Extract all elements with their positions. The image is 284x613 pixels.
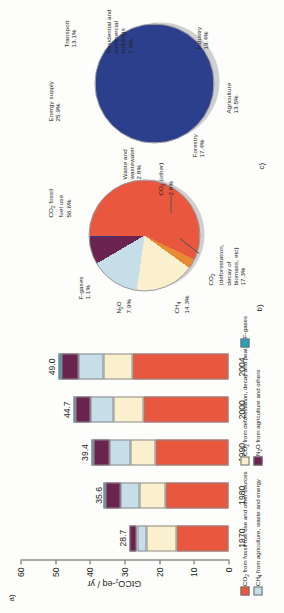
pie-b-wrap <box>88 179 200 291</box>
pie-c-label-energy-supply: Energy supply25.9% <box>46 61 60 121</box>
legend-swatch-co2-fossil <box>240 587 249 596</box>
bar-segment-s0-1970[interactable] <box>176 525 228 551</box>
pie-c-label-forestry: Forestry17.4% <box>190 117 204 157</box>
pie-c-label-agriculture: Agriculture13.5% <box>224 67 238 113</box>
bar-segment-s2-1990[interactable] <box>109 439 130 465</box>
bar-segment-s0-2000[interactable] <box>143 396 228 422</box>
pie-b-slices[interactable] <box>88 179 200 291</box>
bar-segment-s4-1980[interactable] <box>103 482 105 508</box>
legend-label-co2-deforestation: CO2 from deforestation, decay and peat <box>240 348 250 456</box>
bar-1990[interactable] <box>91 439 228 465</box>
bar-segment-s0-1990[interactable] <box>155 439 228 465</box>
y-tick-30 <box>124 560 125 564</box>
bar-segment-s1-2000[interactable] <box>113 396 142 422</box>
panel-b-tag: b) <box>254 304 263 311</box>
bar-segment-s3-2000[interactable] <box>75 396 90 422</box>
panel-b-pie-by-gas: b) CO2 fossilfuel use56.6% CO2 (other)2.… <box>2 153 284 313</box>
pie-c-label-industry: Industry19.4% <box>194 9 208 49</box>
bar-total-label-1970: 28.7 <box>117 518 127 558</box>
bar-plot-area: 28.7197035.6198039.4199044.7200049.02004 <box>20 345 228 559</box>
panel-a-bar-chart: a) 0 10 20 30 40 50 60 GtCO2-eq / yr 28.… <box>6 307 278 607</box>
y-tick-50 <box>55 560 56 564</box>
bar-segment-s4-2000[interactable] <box>73 396 75 422</box>
bar-segment-s3-2004[interactable] <box>61 353 78 379</box>
y-axis-label: GtCO2-eq / yr <box>0 577 234 589</box>
bar-segment-s0-1980[interactable] <box>165 482 228 508</box>
panel-c-pie-by-sector: c) Energy supply25.9% Transport13.1% Res… <box>0 0 284 173</box>
bar-segment-s3-1990[interactable] <box>93 439 109 465</box>
pie-b-label-ch4: CH414.3% <box>172 285 190 313</box>
legend-swatch-n2o <box>253 457 262 466</box>
bar-segment-s1-2004[interactable] <box>103 353 132 379</box>
panel-a-tag: a) <box>6 594 15 601</box>
bar-group-1990: 39.41990 <box>20 439 228 465</box>
bar-segment-s2-2000[interactable] <box>90 396 113 422</box>
bar-group-1970: 28.71970 <box>20 525 228 551</box>
pie-c-label-residential: Residential andcommercial buildings7.9% <box>104 0 133 53</box>
bar-group-1980: 35.61980 <box>20 482 228 508</box>
y-tick-0 <box>228 560 229 564</box>
panel-c-tag: c) <box>256 162 265 169</box>
pie-b-label-f-gases: F-gases1.1% <box>76 263 90 299</box>
y-tick-40 <box>89 560 90 564</box>
bar-segment-s1-1970[interactable] <box>146 525 177 551</box>
bar-segment-s1-1980[interactable] <box>139 482 165 508</box>
legend-label-co2-fossil: CO2 from fossil fuel use and other sourc… <box>240 471 250 586</box>
bar-segment-s0-2004[interactable] <box>132 353 228 379</box>
y-tick-20 <box>159 560 160 564</box>
figure-canvas: a) 0 10 20 30 40 50 60 GtCO2-eq / yr 28.… <box>0 0 284 613</box>
bar-segment-s2-1980[interactable] <box>120 482 140 508</box>
y-tick-60 <box>20 560 21 564</box>
bar-total-label-1990: 39.4 <box>79 432 89 472</box>
bar-group-2000: 44.72000 <box>20 396 228 422</box>
bar-segment-s3-1980[interactable] <box>105 482 119 508</box>
bar-2004[interactable] <box>58 353 228 379</box>
pie-c-label-waste: Waste and wastewater2.8% <box>120 117 142 179</box>
legend-label-n2o: N2O from agriculture and others <box>253 369 263 455</box>
legend-swatch-ch4 <box>253 587 262 596</box>
bar-2000[interactable] <box>73 396 228 422</box>
legend-label-ch4: CH4 from agriculture, waste and energy <box>253 479 263 586</box>
bar-group-2004: 49.02004 <box>20 353 228 379</box>
legend-swatch-co2-deforestation <box>240 457 249 466</box>
legend-label-f-gases: F-gases <box>240 315 247 337</box>
pie-b-label-n2o: N2O7.9% <box>114 287 132 313</box>
legend-swatch-f-gases <box>240 339 249 348</box>
pie-c-label-transport: Transport13.1% <box>62 1 76 47</box>
bar-total-label-2000: 44.7 <box>61 389 71 429</box>
bar-segment-s1-1990[interactable] <box>130 439 155 465</box>
bar-total-label-1980: 35.6 <box>93 475 103 515</box>
bar-total-label-2004: 49.0 <box>46 346 56 386</box>
bar-chart-legend: CO2 from fossil fuel use and other sourc… <box>240 305 276 595</box>
bar-segment-s4-1990[interactable] <box>91 439 93 465</box>
y-tick-10 <box>193 560 194 564</box>
bar-1980[interactable] <box>105 482 228 508</box>
pie-b-leader-co2-other <box>170 195 171 213</box>
bar-segment-s3-1970[interactable] <box>129 525 137 551</box>
pie-b-label-co2-deforestation: CO2(deforestation,decay ofbiomass, etc)1… <box>206 223 245 285</box>
bar-segment-s2-2004[interactable] <box>78 353 103 379</box>
bar-segment-s2-1970[interactable] <box>137 525 146 551</box>
bar-segment-s4-2004[interactable] <box>58 353 60 379</box>
bar-1970[interactable] <box>129 525 228 551</box>
